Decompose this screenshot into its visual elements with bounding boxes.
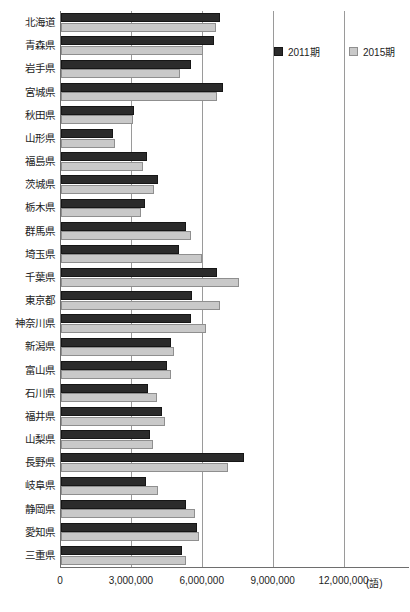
bar-栃木県-2011期 [61, 199, 145, 208]
bar-秋田県-2015期 [61, 115, 133, 124]
bar-row: 秋田県 [60, 104, 409, 127]
bar-岐阜県-2011期 [61, 477, 146, 486]
bar-row: 愛知県 [60, 521, 409, 544]
x-tick-label-12000000: 12,000,000 [318, 575, 368, 586]
x-axis-unit-label: (語) [366, 575, 383, 590]
category-label-神奈川県: 神奈川県 [15, 317, 55, 329]
bar-row: 千葉県 [60, 266, 409, 289]
bar-北海道-2011期 [61, 13, 220, 22]
bar-静岡県-2015期 [61, 509, 195, 518]
bar-秋田県-2011期 [61, 106, 134, 115]
bar-row: 東京都 [60, 289, 409, 312]
bar-青森県-2011期 [61, 36, 214, 45]
bar-宮城県-2015期 [61, 92, 217, 101]
category-label-群馬県: 群馬県 [25, 225, 55, 237]
category-label-栃木県: 栃木県 [25, 201, 55, 213]
category-label-宮城県: 宮城県 [25, 86, 55, 98]
category-label-秋田県: 秋田県 [25, 109, 55, 121]
bar-row: 静岡県 [60, 498, 409, 521]
category-label-静岡県: 静岡県 [25, 503, 55, 515]
bar-長野県-2011期 [61, 453, 244, 462]
bar-row: 神奈川県 [60, 312, 409, 335]
bar-埼玉県-2015期 [61, 254, 202, 263]
bar-静岡県-2011期 [61, 500, 186, 509]
bar-埼玉県-2011期 [61, 245, 179, 254]
x-tick-label-3000000: 3,000,000 [109, 575, 154, 586]
bar-群馬県-2015期 [61, 231, 191, 240]
bar-長野県-2015期 [61, 463, 228, 472]
bar-岐阜県-2015期 [61, 486, 158, 495]
bar-愛知県-2011期 [61, 523, 197, 532]
bar-神奈川県-2011期 [61, 314, 191, 323]
category-label-石川県: 石川県 [25, 387, 55, 399]
bar-chart: 2011期 2015期 北海道青森県岩手県宮城県秋田県山形県福島県茨城県栃木県群… [0, 0, 410, 612]
bar-row: 石川県 [60, 382, 409, 405]
bar-新潟県-2011期 [61, 338, 171, 347]
bar-三重県-2015期 [61, 556, 186, 565]
category-label-岐阜県: 岐阜県 [25, 479, 55, 491]
bar-東京都-2011期 [61, 291, 192, 300]
bar-福井県-2015期 [61, 417, 165, 426]
bar-宮城県-2011期 [61, 83, 223, 92]
bar-石川県-2015期 [61, 393, 157, 402]
bar-茨城県-2011期 [61, 175, 158, 184]
bar-row: 山梨県 [60, 428, 409, 451]
category-label-千葉県: 千葉県 [25, 271, 55, 283]
bar-山梨県-2011期 [61, 430, 150, 439]
bar-row: 長野県 [60, 451, 409, 474]
bar-row: 富山県 [60, 359, 409, 382]
bar-row: 三重県 [60, 544, 409, 567]
bar-栃木県-2015期 [61, 208, 141, 217]
category-label-埼玉県: 埼玉県 [25, 248, 55, 260]
category-label-山形県: 山形県 [25, 132, 55, 144]
category-label-岩手県: 岩手県 [25, 62, 55, 74]
plot-area: 北海道青森県岩手県宮城県秋田県山形県福島県茨城県栃木県群馬県埼玉県千葉県東京都神… [60, 11, 409, 567]
bar-row: 青森県 [60, 34, 409, 57]
bar-福井県-2011期 [61, 407, 162, 416]
bar-福島県-2011期 [61, 152, 147, 161]
bar-新潟県-2015期 [61, 347, 174, 356]
bar-岩手県-2015期 [61, 69, 180, 78]
bar-山形県-2015期 [61, 139, 115, 148]
bar-row: 埼玉県 [60, 243, 409, 266]
bar-群馬県-2011期 [61, 222, 186, 231]
bar-千葉県-2015期 [61, 278, 239, 287]
category-label-長野県: 長野県 [25, 456, 55, 468]
category-label-青森県: 青森県 [25, 39, 55, 51]
category-label-愛知県: 愛知県 [25, 526, 55, 538]
category-label-福井県: 福井県 [25, 410, 55, 422]
bar-富山県-2011期 [61, 361, 167, 370]
bar-北海道-2015期 [61, 23, 216, 32]
bar-富山県-2015期 [61, 370, 171, 379]
x-axis-line [60, 567, 409, 568]
x-tick-label-9000000: 9,000,000 [250, 575, 295, 586]
bar-row: 北海道 [60, 11, 409, 34]
bar-row: 山形県 [60, 127, 409, 150]
x-tick-label-6000000: 6,000,000 [180, 575, 225, 586]
bar-row: 宮城県 [60, 81, 409, 104]
bar-row: 福井県 [60, 405, 409, 428]
bar-愛知県-2015期 [61, 532, 199, 541]
category-label-富山県: 富山県 [25, 364, 55, 376]
category-label-北海道: 北海道 [25, 16, 55, 28]
category-label-新潟県: 新潟県 [25, 340, 55, 352]
bar-千葉県-2011期 [61, 268, 217, 277]
x-tick-label-0: 0 [57, 575, 63, 586]
bar-三重県-2011期 [61, 546, 182, 555]
bar-神奈川県-2015期 [61, 324, 206, 333]
bar-福島県-2015期 [61, 162, 143, 171]
bar-岩手県-2011期 [61, 60, 191, 69]
bar-山形県-2011期 [61, 129, 113, 138]
category-label-三重県: 三重県 [25, 549, 55, 561]
category-label-山梨県: 山梨県 [25, 433, 55, 445]
bar-row: 茨城県 [60, 173, 409, 196]
bar-row: 福島県 [60, 150, 409, 173]
category-label-福島県: 福島県 [25, 155, 55, 167]
bar-青森県-2015期 [61, 46, 203, 55]
bar-茨城県-2015期 [61, 185, 154, 194]
bar-row: 岩手県 [60, 57, 409, 80]
category-label-東京都: 東京都 [25, 294, 55, 306]
bar-row: 栃木県 [60, 196, 409, 219]
bar-石川県-2011期 [61, 384, 148, 393]
bar-row: 群馬県 [60, 220, 409, 243]
